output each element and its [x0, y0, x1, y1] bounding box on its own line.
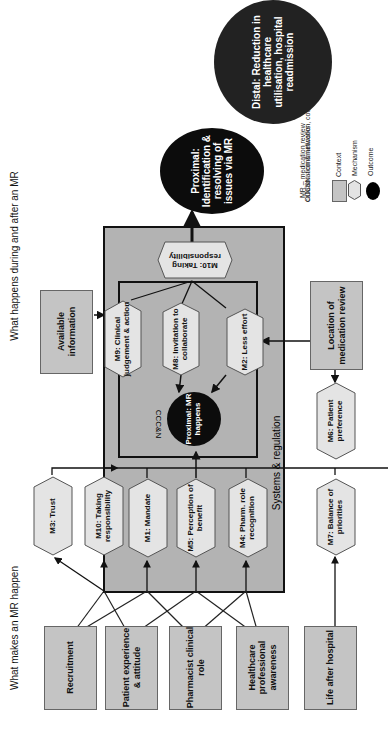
context-available-information: Available information: [40, 290, 93, 374]
mechanism-m2: M2: Less effort: [226, 308, 264, 376]
mechanism-m10-left: M10: Taking responsibility: [84, 476, 124, 556]
systems-regulation-label: Systems & regulation: [269, 398, 285, 528]
outcome-identification: Proximal: Identification & resolving of …: [160, 128, 264, 214]
legend-outcome-label: Outcome: [366, 132, 376, 176]
legend-mechanism-label: Mechanism: [350, 126, 360, 176]
legend-context-swatch: [332, 180, 347, 202]
header-left: What makes an MR happen: [7, 518, 23, 738]
outcome-mr-happens: Proximal: MR happens: [167, 392, 221, 446]
context-pharmacist-role: Pharmacist clinical role: [169, 626, 222, 710]
header-right: What happens during and after an MR: [7, 146, 23, 366]
mechanism-m7: M7: Balance of priorities: [316, 478, 356, 556]
legend-mechanism-swatch: [348, 180, 361, 200]
mechanism-m5: M5: Perception of benefit: [176, 478, 216, 558]
context-recruitment: Recruitment: [44, 626, 97, 710]
mechanism-m8: M8: Invitation to collaborate: [162, 302, 200, 376]
mechanism-m3: M3: Trust: [33, 476, 73, 556]
context-location: Location of medication review: [310, 281, 363, 370]
legend-context-label: Context: [334, 137, 344, 177]
mechanism-m9: M9: Clinical judgement & action: [104, 300, 142, 378]
cccn-label: CCC&N: [151, 404, 165, 444]
context-life-after-hospital: Life after hospital: [304, 626, 357, 710]
context-hcp-awareness: Healthcare professional awareness: [236, 626, 289, 710]
context-patient-experience: Patient experience & attitude: [105, 626, 158, 710]
mechanism-m6: M6: Patient preference: [316, 382, 356, 460]
legend-outcome-swatch: [366, 182, 380, 200]
mechanism-m4: M4: Pharm. role recognition: [228, 478, 268, 558]
outcome-distal: Distal: Reduction in healthcare utilisat…: [214, 0, 332, 124]
legend-cccn-2: collaboration & networks: [303, 102, 313, 202]
mechanism-m10-right: M10: Taking responsibility: [157, 241, 233, 279]
mechanism-m1: M1: Mandate: [128, 478, 168, 558]
